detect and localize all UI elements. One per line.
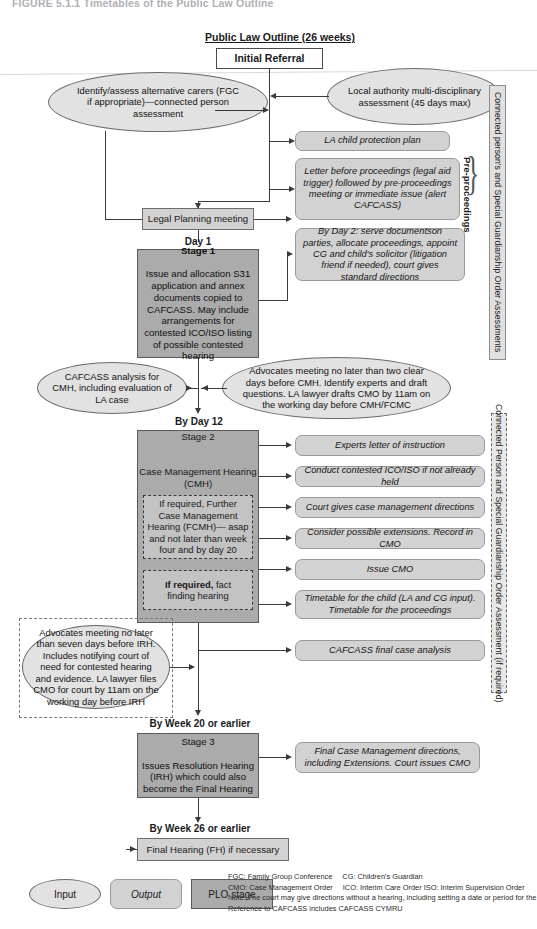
stage3-body: Issues Resolution Hearing (IRH) which co… [141,760,255,795]
arrow-stage2-down [195,710,201,716]
arrow-lpm-to-lbp [286,216,292,222]
output-experts-letter: Experts letter of instruction [295,435,485,456]
connector-spine-to-cpp [269,141,290,142]
connector-spine-to-lbp [269,189,290,190]
footnotes: FGC: Family Group ConferenceCG: Children… [228,872,533,915]
output-final-case-management: Final Case Management directions, includ… [295,742,480,773]
stage1-text: Stage 1Issue and allocation S31 applicat… [142,245,254,362]
stage2-subtitle: Case Management Hearing (CMH) [137,466,259,489]
connector-s2-o4 [259,538,287,539]
connector-stage2-down [198,623,199,713]
arrow-spine-to-lbp [289,186,295,192]
connector-stage1-down [198,358,199,411]
arrow-advocates-to-spine [202,385,208,391]
connector-s2-o7 [198,650,287,651]
stage2-title: Stage 2 [137,431,259,443]
output-by-day-2: By Day 2: serve documentson parties, all… [295,228,465,281]
stage2-header-text: Stage 2Case Management Hearing (CMH) [137,431,259,490]
arrow-la-to-spine [270,93,276,99]
day-label-by-week-20: By Week 20 or earlier [145,718,255,729]
plo-title: Public Law Outline (26 weeks) [205,31,355,43]
input-local-authority-assessment: Local authority multi-disciplinary asses… [327,68,502,125]
arrow-stage1-to-day2 [287,251,293,257]
final-hearing-box: Final Hearing (FH) if necessary [137,838,289,861]
sidebar-connected-person-lower: Connected Person and Special Guardianshi… [491,413,507,693]
stage1-box: Stage 1Issue and allocation S31 applicat… [137,249,259,358]
stage1-title: Stage 1 [142,245,254,257]
output-cafcass-final-analysis: CAFCASS final case analysis [295,640,485,661]
connector-carers-down [105,131,106,219]
arrow-cafcass-to-spine [186,385,192,391]
connector-day2-riser [287,255,288,301]
arrow-s2-o1 [286,442,292,448]
arrow-carers-to-spine [263,107,269,113]
connector-spine-top [269,69,270,201]
connector-spine-elbow [198,201,270,202]
input-identify-carers: Identify/assess alternative carers (FGC … [48,72,268,132]
arrow-s2-o2 [286,473,292,479]
legal-planning-meeting-box: Legal Planning meeting [142,208,254,230]
connector-s2-o1 [259,445,287,446]
connector-carers-to-spine [215,110,265,111]
arrow-s2-o4 [286,535,292,541]
sidebar-connected-person-upper: Connected person's and Special Guardians… [489,85,506,360]
input-advocates-cmh: Advocates meeting no later than two clea… [222,357,451,419]
initial-referral-box: Initial Referral [216,48,323,69]
arrow-s3-out [286,754,292,760]
initial-referral-label: Initial Referral [217,52,322,65]
stage3-box: Stage 3Issues Resolution Hearing (IRH) w… [137,733,259,798]
footnote-line-2: CMO: Case Management OrderICO: Interim C… [228,883,533,894]
day-label-by-day-12: By Day 12 [163,416,235,427]
legend-input: Input [29,879,101,909]
stage2-fcmh-dashed-box: If required, Further Case Management Hea… [143,495,253,559]
input-advocates-irh: Advocates meeting no later than seven da… [22,625,170,709]
stage1-body: Issue and allocation S31 application and… [142,268,254,362]
footnote-line-4: Reference to CAFCASS includes CAFCASS CY… [228,904,533,915]
connector-s2-o6 [259,604,287,605]
figure-caption: FIGURE 5.1.1 Timetables of the Public La… [12,0,274,9]
footnote-line-1: FGC: Family Group ConferenceCG: Children… [228,872,533,883]
output-consider-extensions: Consider possible extensions. Record in … [295,528,485,549]
connector-la-to-spine [275,96,329,97]
connector-s2-o2 [259,476,287,477]
arrow-into-lpm [195,203,201,209]
output-court-directions: Court gives case management directions [295,497,485,518]
connector-lpm-to-lbp [254,219,287,220]
footnote-line-3: Note: The court may give directions with… [228,893,533,904]
day-label-by-week-26: By Week 26 or earlier [145,823,255,834]
arrow-s2-o5 [286,566,292,572]
arrow-spine-to-cpp [289,138,295,144]
connector-stage1-to-day2 [259,300,287,301]
stage2-fact-bold: If required, [165,579,213,590]
stage2-fact-text: If required, factfinding hearing [165,579,231,602]
arrow-s2-o3 [286,504,292,510]
output-conduct-contested: Conduct contested ICO/ISO if not already… [295,466,485,487]
stage3-text: Stage 3Issues Resolution Hearing (IRH) w… [141,736,255,795]
legend-output: Output [110,879,182,909]
arrow-advocates-irh [189,664,195,670]
stage2-fact-finding-dashed-box: If required, factfinding hearing [143,570,253,610]
connector-carers-to-lpm [105,219,142,220]
pre-proceedings-label: Pre-proceedings [462,157,473,233]
input-cafcass-analysis: CAFCASS analysis for CMH, including eval… [37,362,187,414]
flowchart-canvas: FIGURE 5.1.1 Timetables of the Public La… [0,0,537,929]
arrow-s2-o7 [286,647,292,653]
arrow-stage1-down [195,408,201,414]
output-issue-cmo: Issue CMO [295,559,485,580]
connector-s2-o3 [259,507,287,508]
arrow-s2-o6 [286,601,292,607]
output-la-child-protection-plan: LA child protection plan [295,131,450,151]
connector-s2-o5 [259,569,287,570]
output-letter-before-proceedings: Letter before proceedings (legal aid tri… [295,158,460,220]
connector-s3-out [259,757,287,758]
arrow-final-in [130,846,136,852]
output-timetable: Timetable for the child (LA and CG input… [295,590,485,619]
stage3-title: Stage 3 [141,736,255,748]
stage2-header: Stage 2Case Management Hearing (CMH) [137,434,259,486]
